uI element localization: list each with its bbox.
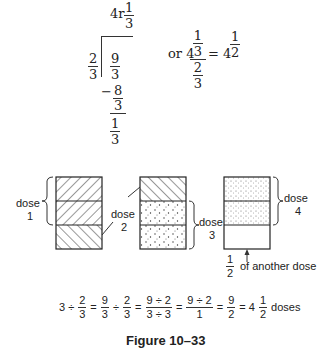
dose-2-number: 2 bbox=[121, 221, 127, 233]
equation: 3 ÷ 23 = 93 ÷ 23 = 9 ÷ 23 ÷ 3 = 9 ÷ 21 =… bbox=[59, 292, 300, 322]
dose-4-number: 4 bbox=[295, 205, 301, 217]
dose-1-number: 1 bbox=[27, 210, 33, 222]
dose-2-label: dose bbox=[111, 208, 135, 220]
dose-4-label: dose bbox=[284, 192, 308, 204]
dose-1-label: dose bbox=[16, 197, 40, 209]
dose-3-label: dose bbox=[199, 216, 223, 228]
half-caption: of another dose bbox=[240, 260, 316, 272]
dose-3-number: 3 bbox=[209, 229, 215, 241]
half-fraction: 1 2 bbox=[226, 254, 234, 279]
figure-caption: Figure 10–33 bbox=[126, 333, 206, 348]
